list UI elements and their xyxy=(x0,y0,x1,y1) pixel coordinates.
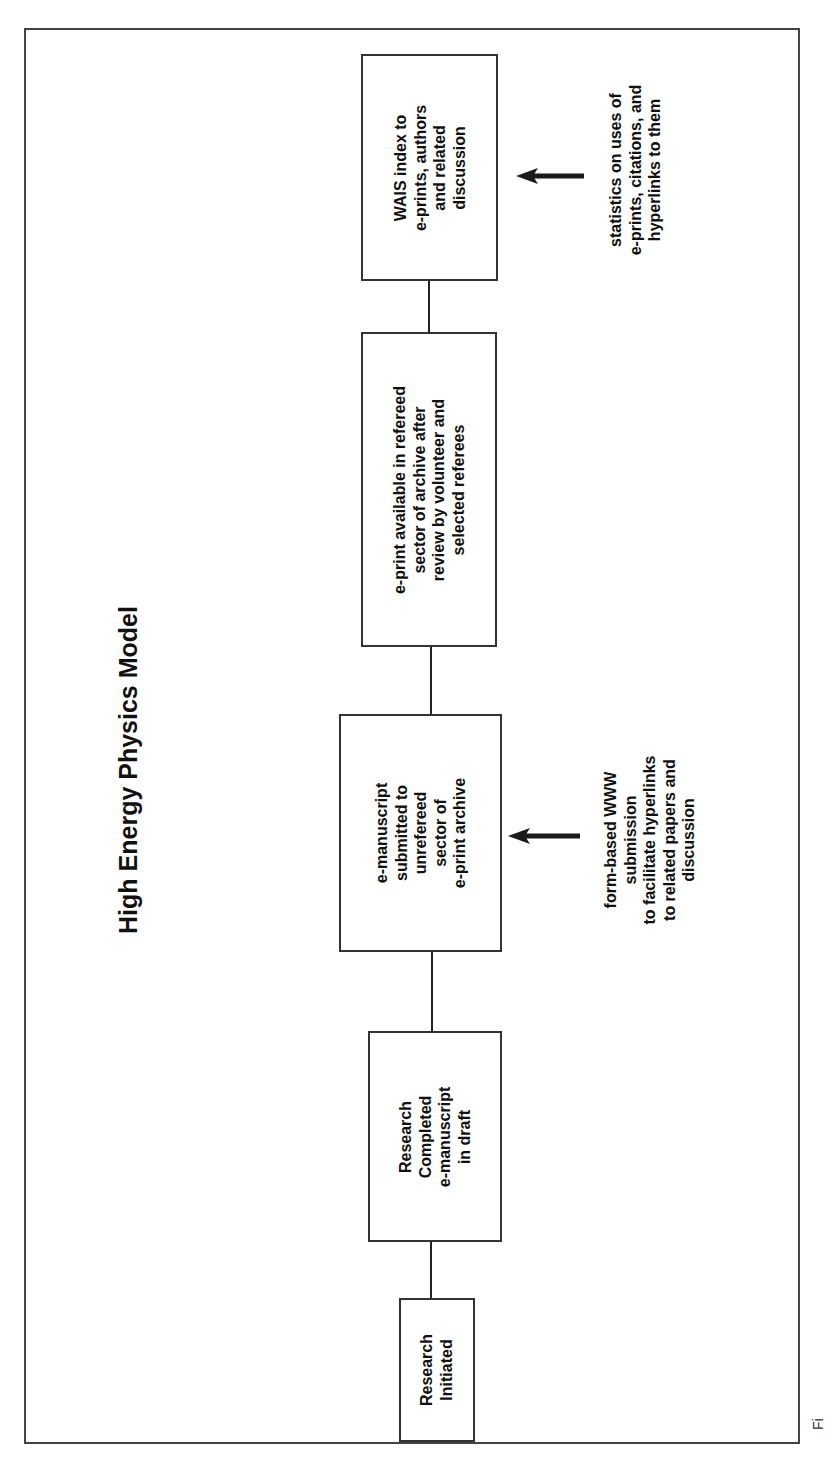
annotation-line: to related papers and xyxy=(660,756,680,925)
box-line: e-prints, authors xyxy=(410,104,430,230)
figure-caption-partial: Fi xyxy=(810,1418,826,1430)
connector-1-2 xyxy=(430,1241,432,1298)
box-e-manuscript-submitted-label: e-manuscript submitted to unrefereed sec… xyxy=(372,778,470,888)
box-e-print-refereed-label: e-print available in refereed sector of … xyxy=(390,385,468,593)
annotation-line: to facilitate hyperlinks xyxy=(640,756,660,925)
arrow-left-icon xyxy=(516,166,586,186)
box-line: review by volunteer and xyxy=(429,385,449,593)
box-e-print-refereed: e-print available in refereed sector of … xyxy=(361,332,497,647)
box-wais-index: WAIS index to e-prints, authors and rela… xyxy=(361,54,498,281)
box-research-completed: Research Completed e-manuscript in draft xyxy=(368,1031,502,1242)
box-line: sector of xyxy=(430,778,450,888)
annotation-statistics: statistics on uses of e-prints, citation… xyxy=(585,40,685,300)
box-line: sector of archive after xyxy=(409,385,429,593)
box-line: unrefereed xyxy=(411,778,431,888)
box-e-manuscript-submitted: e-manuscript submitted to unrefereed sec… xyxy=(339,714,502,952)
box-line: WAIS index to xyxy=(390,104,410,230)
annotation-form-based-submission-label: form-based WWW submission to facilitate … xyxy=(601,756,699,925)
box-line: Research xyxy=(417,1334,437,1406)
diagram-title: High Energy Physics Model xyxy=(114,606,143,934)
box-line: e-manuscript xyxy=(372,778,392,888)
box-research-initiated-label: Research Initiated xyxy=(417,1334,456,1406)
annotation-line: statistics on uses of xyxy=(606,85,626,256)
box-line: Research xyxy=(396,1086,416,1186)
connector-2-3 xyxy=(431,951,433,1032)
box-line: Completed xyxy=(415,1086,435,1186)
annotation-line: discussion xyxy=(679,756,699,925)
annotation-line: e-prints, citations, and xyxy=(625,85,645,256)
connector-3-4 xyxy=(430,646,432,714)
annotation-line: form-based WWW xyxy=(601,756,621,925)
box-line: selected referees xyxy=(449,385,469,593)
box-line: e-print available in refereed xyxy=(390,385,410,593)
connector-4-5 xyxy=(428,280,430,333)
box-research-completed-label: Research Completed e-manuscript in draft xyxy=(396,1086,474,1186)
box-line: submitted to xyxy=(391,778,411,888)
box-line: Initiated xyxy=(437,1334,457,1406)
box-line: and related xyxy=(430,104,450,230)
annotation-statistics-label: statistics on uses of e-prints, citation… xyxy=(606,85,665,256)
box-line: e-print archive xyxy=(450,778,470,888)
box-line: in draft xyxy=(455,1086,475,1186)
arrow-left-icon xyxy=(508,826,582,846)
annotation-form-based-submission: form-based WWW submission to facilitate … xyxy=(580,690,720,990)
box-line: e-manuscript xyxy=(435,1086,455,1186)
box-line: discussion xyxy=(449,104,469,230)
annotation-line: submission xyxy=(621,756,641,925)
annotation-line: hyperlinks to them xyxy=(645,85,665,256)
box-research-initiated: Research Initiated xyxy=(399,1298,475,1442)
box-wais-index-label: WAIS index to e-prints, authors and rela… xyxy=(390,104,468,230)
